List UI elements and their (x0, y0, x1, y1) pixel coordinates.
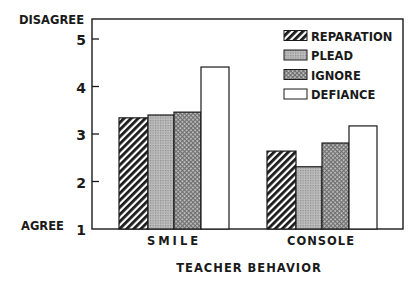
y-top-label: DISAGREE (19, 13, 84, 27)
y-axis: 12345DISAGREEAGREE (19, 13, 99, 238)
x-category-label: CONSOLE (287, 234, 355, 248)
bar-ignore (174, 112, 201, 229)
legend-label-ignore: IGNORE (311, 69, 361, 83)
legend-swatch-ignore (284, 70, 307, 80)
y-tick-label: 5 (76, 32, 86, 48)
bar-reparation (119, 118, 148, 229)
bar-plead (148, 115, 174, 229)
legend: REPARATIONPLEADIGNOREDEFIANCE (284, 30, 392, 103)
legend-label-reparation: REPARATION (311, 30, 392, 44)
x-category-label: SMILE (147, 234, 201, 248)
bar-defiance (349, 126, 377, 229)
bar-chart: 12345DISAGREEAGREE REPARATIONPLEADIGNORE… (0, 0, 418, 284)
legend-swatch-defiance (284, 89, 307, 99)
x-axis-title: TEACHER BEHAVIOR (176, 261, 322, 275)
y-tick-label: 1 (76, 222, 86, 238)
y-tick-label: 2 (76, 175, 86, 191)
y-bottom-label: AGREE (21, 219, 64, 233)
legend-label-plead: PLEAD (311, 49, 353, 63)
y-tick-label: 4 (76, 80, 86, 96)
legend-swatch-plead (284, 50, 307, 60)
x-axis: SMILECONSOLETEACHER BEHAVIOR (147, 234, 355, 275)
bar-ignore (322, 143, 349, 229)
bar-group-console (267, 126, 377, 229)
bar-defiance (201, 67, 229, 229)
y-tick-label: 3 (76, 127, 86, 143)
legend-swatch-reparation (284, 31, 307, 41)
bar-reparation (267, 151, 296, 229)
bar-group-smile (119, 67, 229, 229)
legend-label-defiance: DEFIANCE (311, 88, 376, 102)
bar-plead (296, 167, 322, 229)
